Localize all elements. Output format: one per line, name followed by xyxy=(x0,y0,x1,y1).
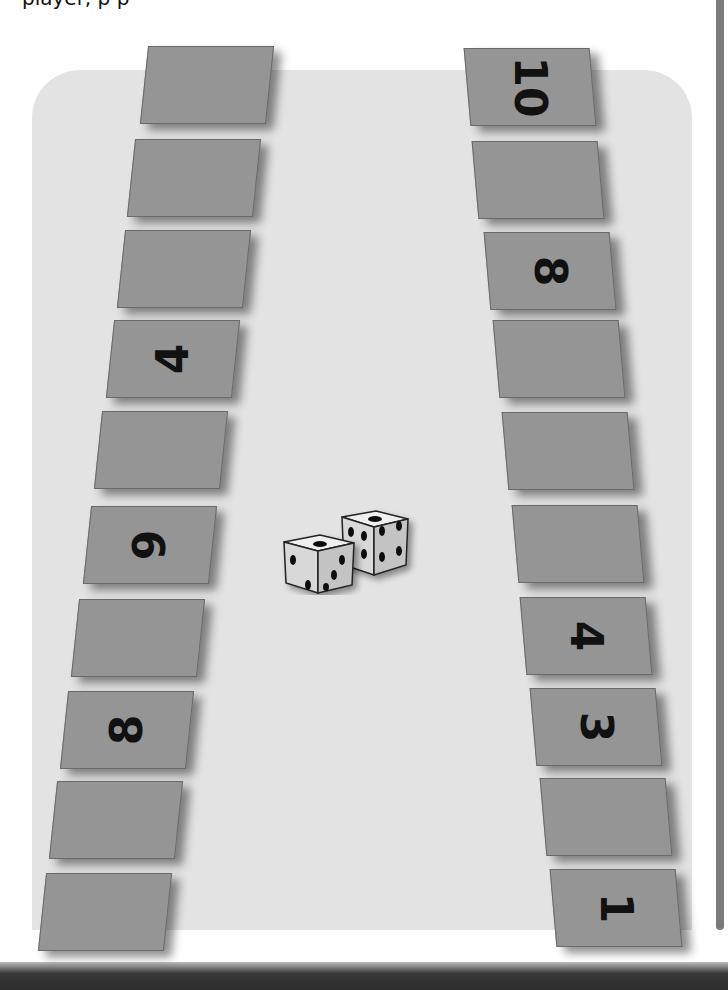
card-number: 3 xyxy=(574,712,618,743)
right-card-3[interactable]: 8 xyxy=(484,232,617,310)
card-number: 4 xyxy=(151,344,195,375)
card-number: 4 xyxy=(564,621,608,652)
right-card-9[interactable] xyxy=(540,778,673,856)
right-card-4[interactable] xyxy=(493,320,626,398)
left-card-6[interactable]: 9 xyxy=(83,506,217,584)
right-card-8[interactable]: 3 xyxy=(530,688,663,766)
clipped-heading-text: player, p p xyxy=(22,0,129,10)
card-number: 1 xyxy=(594,893,638,924)
card-number: 10 xyxy=(508,56,552,117)
right-card-7[interactable]: 4 xyxy=(520,597,653,675)
left-card-3[interactable] xyxy=(117,230,251,308)
left-card-5[interactable] xyxy=(94,411,228,489)
right-card-2[interactable] xyxy=(472,141,605,219)
left-card-10[interactable] xyxy=(38,873,172,951)
right-card-10[interactable]: 1 xyxy=(550,869,683,947)
page-edge-bar xyxy=(716,0,724,930)
card-number: 8 xyxy=(105,715,149,746)
card-number: 8 xyxy=(528,256,572,287)
left-card-8[interactable]: 8 xyxy=(60,691,194,769)
left-card-4[interactable]: 4 xyxy=(106,320,240,398)
right-card-1[interactable]: 10 xyxy=(464,48,597,126)
left-card-2[interactable] xyxy=(127,139,261,217)
left-card-9[interactable] xyxy=(49,781,183,859)
page-bottom-band xyxy=(0,962,728,990)
right-card-6[interactable] xyxy=(512,505,645,583)
die-front xyxy=(284,535,354,593)
card-number: 9 xyxy=(128,530,172,561)
left-card-1[interactable] xyxy=(140,46,274,124)
left-card-7[interactable] xyxy=(71,599,205,677)
dice-icon[interactable] xyxy=(280,505,420,595)
right-card-5[interactable] xyxy=(502,412,635,490)
